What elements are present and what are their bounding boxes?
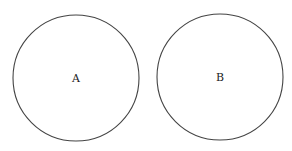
circle-a-label: A — [71, 72, 81, 85]
diagram-canvas: A B — [0, 0, 292, 151]
circle-b-label: B — [216, 71, 224, 84]
